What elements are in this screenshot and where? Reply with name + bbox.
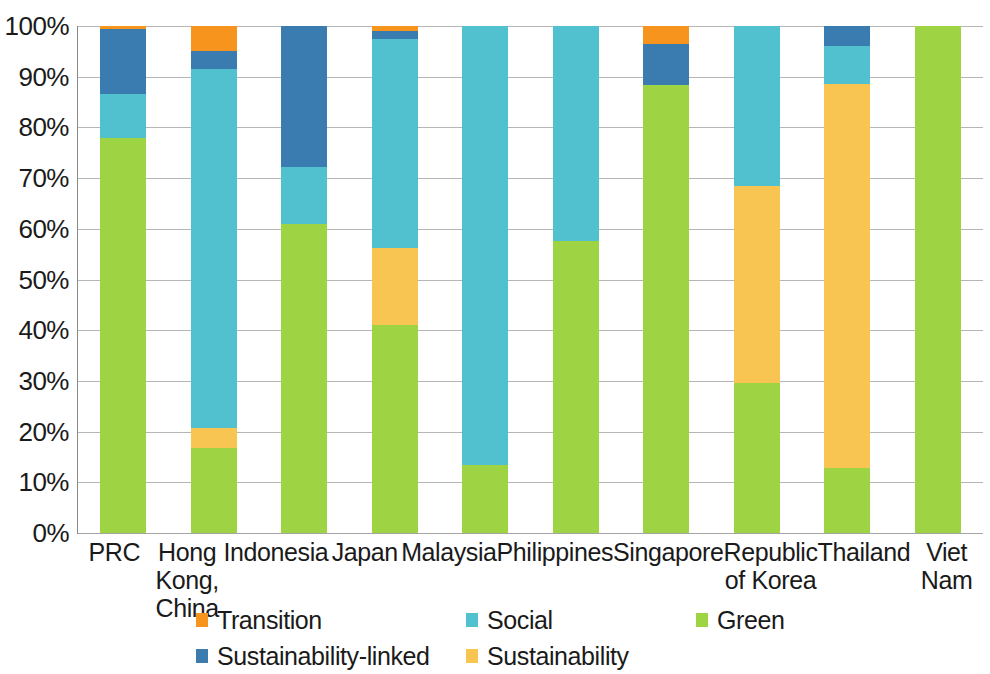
x-axis-category-label: Viet Nam <box>910 538 983 600</box>
y-axis-tick-label: 0% <box>0 520 69 546</box>
bar-segment-social[interactable] <box>281 167 327 223</box>
stacked-bar[interactable] <box>553 26 599 533</box>
bar-segment-transition[interactable] <box>372 26 418 31</box>
y-axis-tick-label: 60% <box>0 216 69 242</box>
bar-segment-social[interactable] <box>462 26 508 465</box>
legend-swatch-icon <box>696 613 708 627</box>
legend-item-social[interactable]: Social <box>466 607 696 634</box>
bar-segment-green[interactable] <box>372 325 418 533</box>
legend-label: Green <box>717 607 784 634</box>
bar-segment-green[interactable] <box>553 241 599 533</box>
stacked-bar[interactable] <box>191 26 237 533</box>
gridline <box>78 533 983 534</box>
bar-segment-social[interactable] <box>734 26 780 186</box>
bar-segment-social[interactable] <box>191 69 237 427</box>
y-axis-tick-label: 20% <box>0 419 69 445</box>
x-axis-category-label: PRC <box>78 538 151 600</box>
stacked-bar[interactable] <box>462 26 508 533</box>
plot-area <box>78 26 983 533</box>
bar-slot <box>259 26 350 533</box>
stacked-bar[interactable] <box>734 26 780 533</box>
legend-label: Social <box>487 607 553 634</box>
x-axis-category-label: Thailand <box>818 538 911 600</box>
x-axis-category-labels: PRCHong Kong, ChinaIndonesiaJapanMalaysi… <box>78 538 983 600</box>
x-axis-category-label: Singapore <box>613 538 723 600</box>
x-axis-category-label: Indonesia <box>224 538 329 600</box>
stacked-bar[interactable] <box>915 26 961 533</box>
bar-segment-sustainability-linked[interactable] <box>824 26 870 46</box>
bar-segment-green[interactable] <box>281 224 327 533</box>
stacked-bar[interactable] <box>372 26 418 533</box>
legend-swatch-icon <box>466 649 478 663</box>
bar-segment-social[interactable] <box>824 46 870 84</box>
legend-swatch-icon <box>196 649 208 663</box>
legend-swatch-icon <box>466 613 478 627</box>
bar-segment-social[interactable] <box>553 26 599 241</box>
bar-segment-sustainability[interactable] <box>824 84 870 468</box>
y-axis-tick-label: 100% <box>0 13 69 39</box>
x-axis-category-label: Hong Kong, China <box>151 538 224 600</box>
bar-slot <box>531 26 622 533</box>
bar-segment-green[interactable] <box>191 448 237 533</box>
bar-segment-social[interactable] <box>100 94 146 138</box>
bar-segment-social[interactable] <box>372 39 418 248</box>
legend-swatch-icon <box>196 613 208 627</box>
y-axis-tick-label: 50% <box>0 267 69 293</box>
x-axis-category-label: Republic of Korea <box>723 538 817 600</box>
bar-segment-sustainability-linked[interactable] <box>100 29 146 94</box>
x-axis-category-label: Philippines <box>497 538 614 600</box>
x-axis-category-label: Malaysia <box>401 538 496 600</box>
legend-item-green[interactable]: Green <box>696 607 896 634</box>
bar-slot <box>350 26 441 533</box>
bar-segment-transition[interactable] <box>100 26 146 29</box>
bar-segment-transition[interactable] <box>643 26 689 44</box>
legend-label: Sustainability <box>487 643 629 670</box>
bar-segment-green[interactable] <box>100 138 146 533</box>
stacked-bar[interactable] <box>100 26 146 533</box>
bar-slot <box>802 26 893 533</box>
legend-label: Sustainability-linked <box>217 643 430 670</box>
x-axis-category-label: Japan <box>328 538 401 600</box>
legend-label: Transition <box>217 607 322 634</box>
bar-segment-sustainability-linked[interactable] <box>372 31 418 39</box>
bar-segment-sustainability[interactable] <box>372 248 418 325</box>
stacked-bar[interactable] <box>824 26 870 533</box>
bar-slot <box>621 26 712 533</box>
stacked-bar[interactable] <box>643 26 689 533</box>
y-axis-tick-label: 30% <box>0 368 69 394</box>
bar-segment-sustainability[interactable] <box>191 428 237 448</box>
legend-item-sustainability-linked[interactable]: Sustainability-linked <box>196 643 466 670</box>
bar-slot <box>712 26 803 533</box>
y-axis-tick-label: 40% <box>0 317 69 343</box>
bar-slot <box>893 26 984 533</box>
bar-segment-sustainability-linked[interactable] <box>643 44 689 85</box>
bar-slot <box>78 26 169 533</box>
y-axis-tick-label: 70% <box>0 165 69 191</box>
bar-series-container <box>78 26 983 533</box>
bar-segment-sustainability-linked[interactable] <box>281 26 327 167</box>
bar-segment-sustainability[interactable] <box>734 186 780 384</box>
bar-slot <box>440 26 531 533</box>
bar-slot <box>169 26 260 533</box>
bar-segment-transition[interactable] <box>191 26 237 51</box>
bar-segment-green[interactable] <box>643 85 689 533</box>
legend-item-sustainability[interactable]: Sustainability <box>466 643 696 670</box>
bar-segment-green[interactable] <box>915 26 961 533</box>
y-axis-tick-label: 10% <box>0 469 69 495</box>
bar-segment-green[interactable] <box>462 465 508 533</box>
bar-segment-green[interactable] <box>734 383 780 533</box>
bar-segment-green[interactable] <box>824 468 870 533</box>
legend-item-transition[interactable]: Transition <box>196 607 466 634</box>
stacked-bar[interactable] <box>281 26 327 533</box>
bar-segment-sustainability-linked[interactable] <box>191 51 237 69</box>
y-axis-tick-label: 90% <box>0 64 69 90</box>
chart-legend: TransitionSocialGreenSustainability-link… <box>196 602 896 674</box>
y-axis-tick-label: 80% <box>0 114 69 140</box>
